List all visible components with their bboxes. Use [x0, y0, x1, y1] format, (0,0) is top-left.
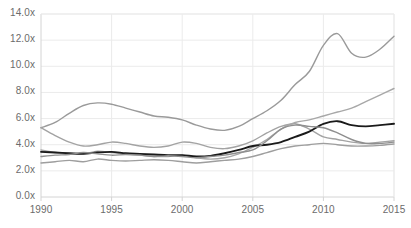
y-axis-tick-label: 10.0x: [10, 59, 35, 70]
plot-background: [41, 14, 394, 197]
x-axis-tick-label: 2005: [233, 204, 273, 215]
x-axis-tick-label: 1990: [21, 204, 61, 215]
x-axis-tick-label: 2010: [303, 204, 343, 215]
x-axis-tick-label: 2015: [374, 204, 411, 215]
y-axis-tick-label: 2.0x: [16, 164, 35, 175]
y-axis-tick-label: 14.0x: [10, 7, 35, 18]
y-axis-tick-label: 12.0x: [10, 33, 35, 44]
x-axis-tick-label: 2000: [162, 204, 202, 215]
y-axis-tick-label: 4.0x: [16, 138, 35, 149]
chart-plot-area: [0, 0, 411, 228]
y-axis-tick-label: 0.0x: [16, 190, 35, 201]
y-axis-tick-label: 6.0x: [16, 112, 35, 123]
line-chart: 0.0x2.0x4.0x6.0x8.0x10.0x12.0x14.0x19901…: [0, 0, 411, 228]
x-axis-tick-label: 1995: [92, 204, 132, 215]
y-axis-tick-label: 8.0x: [16, 85, 35, 96]
